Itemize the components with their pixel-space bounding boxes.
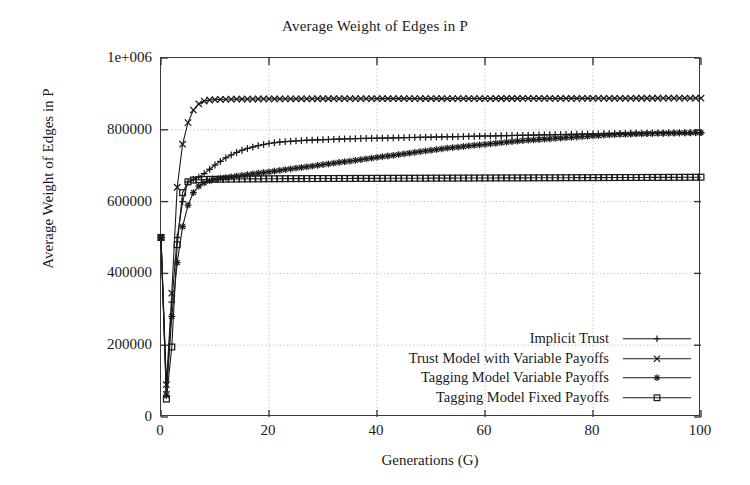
chart-figure: Average Weight of Edges in P Average Wei… bbox=[0, 0, 750, 485]
marker-plus bbox=[260, 141, 267, 148]
marker-plus bbox=[255, 142, 262, 149]
marker-asterisk bbox=[384, 153, 391, 160]
marker-plus bbox=[271, 139, 278, 146]
marker-asterisk bbox=[185, 202, 192, 209]
legend-item-label: Tagging Model Fixed Payoffs bbox=[436, 388, 609, 408]
marker-asterisk bbox=[352, 157, 359, 164]
marker-asterisk bbox=[293, 165, 300, 172]
marker-asterisk bbox=[379, 153, 386, 160]
marker-asterisk bbox=[271, 168, 278, 175]
marker-asterisk bbox=[411, 149, 418, 156]
marker-asterisk bbox=[298, 164, 305, 171]
marker-asterisk bbox=[438, 145, 445, 152]
marker-asterisk bbox=[168, 313, 175, 320]
y-tick-label: 200000 bbox=[2, 336, 152, 353]
x-tick-label: 40 bbox=[336, 422, 416, 439]
marker-asterisk bbox=[654, 374, 661, 381]
legend-sample-plus bbox=[618, 329, 696, 349]
legend-sample-asterisk bbox=[618, 368, 696, 388]
marker-asterisk bbox=[287, 166, 294, 173]
marker-asterisk bbox=[320, 161, 327, 168]
marker-asterisk bbox=[417, 148, 424, 155]
y-tick-label: 1e+006 bbox=[2, 49, 152, 66]
marker-cross bbox=[190, 107, 196, 113]
marker-asterisk bbox=[282, 166, 289, 173]
marker-asterisk bbox=[428, 147, 435, 154]
marker-asterisk bbox=[401, 150, 408, 157]
marker-asterisk bbox=[336, 159, 343, 166]
marker-asterisk bbox=[395, 151, 402, 158]
marker-asterisk bbox=[698, 129, 705, 136]
marker-plus bbox=[249, 144, 256, 151]
marker-plus bbox=[217, 158, 224, 165]
y-tick-label: 600000 bbox=[2, 192, 152, 209]
legend-item: Tagging Model Fixed Payoffs bbox=[409, 388, 696, 408]
marker-asterisk bbox=[347, 158, 354, 165]
marker-asterisk bbox=[363, 155, 370, 162]
legend-item-label: Implicit Trust bbox=[530, 329, 609, 349]
marker-plus bbox=[266, 140, 273, 147]
x-tick-label: 100 bbox=[660, 422, 740, 439]
marker-asterisk bbox=[330, 160, 337, 167]
marker-asterisk bbox=[303, 163, 310, 170]
marker-asterisk bbox=[190, 189, 197, 196]
marker-asterisk bbox=[433, 146, 440, 153]
marker-asterisk bbox=[374, 154, 381, 161]
chart-title: Average Weight of Edges in P bbox=[0, 18, 750, 35]
marker-plus bbox=[654, 335, 661, 342]
x-tick-label: 60 bbox=[444, 422, 524, 439]
x-tick-label: 20 bbox=[228, 422, 308, 439]
marker-asterisk bbox=[266, 168, 273, 175]
legend-item: Implicit Trust bbox=[409, 329, 696, 349]
marker-asterisk bbox=[341, 158, 348, 165]
marker-asterisk bbox=[314, 162, 321, 169]
marker-asterisk bbox=[406, 150, 413, 157]
marker-asterisk bbox=[368, 155, 375, 162]
marker-asterisk bbox=[390, 152, 397, 159]
marker-asterisk bbox=[325, 161, 332, 168]
x-axis-label: Generations (G) bbox=[160, 452, 700, 469]
legend-item-label: Trust Model with Variable Payoffs bbox=[409, 349, 609, 369]
x-tick-label: 80 bbox=[552, 422, 632, 439]
x-tick-label: 0 bbox=[120, 422, 200, 439]
marker-plus bbox=[179, 198, 186, 205]
marker-asterisk bbox=[422, 148, 429, 155]
legend-sample-square bbox=[618, 388, 696, 408]
legend-sample-cross bbox=[618, 349, 696, 369]
marker-asterisk bbox=[357, 156, 364, 163]
marker-asterisk bbox=[174, 259, 181, 266]
legend-item-label: Tagging Model Variable Payoffs bbox=[421, 368, 609, 388]
chart-legend: Implicit TrustTrust Model with Variable … bbox=[409, 329, 696, 407]
marker-asterisk bbox=[179, 223, 186, 230]
marker-asterisk bbox=[276, 167, 283, 174]
legend-item: Trust Model with Variable Payoffs bbox=[409, 349, 696, 369]
marker-asterisk bbox=[195, 183, 202, 190]
legend-item: Tagging Model Variable Payoffs bbox=[409, 368, 696, 388]
y-tick-label: 400000 bbox=[2, 264, 152, 281]
y-tick-label: 800000 bbox=[2, 120, 152, 137]
marker-asterisk bbox=[260, 169, 267, 176]
marker-asterisk bbox=[309, 163, 316, 170]
